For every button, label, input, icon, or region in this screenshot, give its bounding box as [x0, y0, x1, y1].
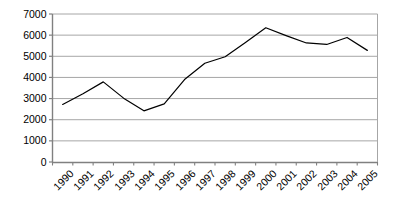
y-axis-tick-label: 6000: [0, 30, 47, 41]
y-axis-tick-label: 2000: [0, 114, 47, 125]
y-axis-tick-label: 5000: [0, 51, 47, 62]
y-axis-tick-label: 4000: [0, 72, 47, 83]
line-chart: 01000200030004000500060007000 1990199119…: [0, 0, 398, 212]
gridlines: [53, 14, 378, 141]
y-axis-tick-label: 0: [0, 157, 47, 168]
y-axis-tick-label: 7000: [0, 9, 47, 20]
y-axis-tick-label: 1000: [0, 135, 47, 146]
y-axis-tick-label: 3000: [0, 93, 47, 104]
